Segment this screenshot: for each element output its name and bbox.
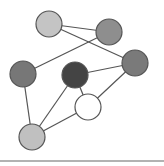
node-n5: [62, 62, 88, 88]
node-n2: [96, 19, 122, 45]
node-n3: [122, 50, 148, 76]
node-n7: [19, 124, 45, 150]
node-n4: [10, 61, 36, 87]
node-n1: [36, 11, 62, 37]
network-diagram: [0, 0, 164, 166]
node-n6: [75, 94, 101, 120]
nodes: [10, 11, 148, 150]
